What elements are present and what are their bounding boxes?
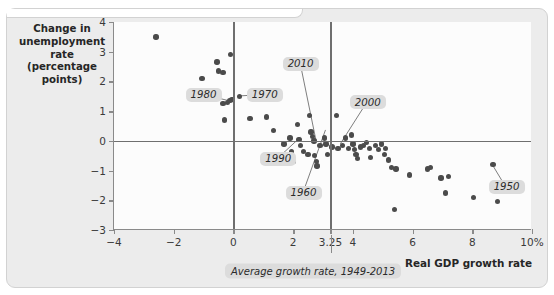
- x-tick-mark: [233, 229, 234, 234]
- annotation-label-2010: 2010: [283, 57, 319, 71]
- reference-line-y-0: [114, 141, 531, 142]
- data-point: [386, 157, 391, 162]
- plot-area: 43210−1−2−3 −4−2023.2546810% 19801970201…: [113, 22, 531, 230]
- x-tick-label: −2: [166, 236, 181, 248]
- data-point: [307, 113, 312, 118]
- x-tick-label: 6: [409, 236, 416, 248]
- data-point: [392, 207, 397, 212]
- data-point: [228, 52, 233, 57]
- data-point: [305, 152, 310, 157]
- y-tick-mark: [109, 81, 114, 82]
- data-point: [295, 122, 300, 127]
- data-point: [355, 156, 360, 161]
- y-tick-mark: [109, 22, 114, 23]
- data-point: [247, 116, 252, 121]
- x-tick-mark: [472, 229, 473, 234]
- data-point: [153, 34, 158, 39]
- annotation-label-1960: 1960: [286, 186, 322, 200]
- data-point: [322, 135, 327, 140]
- data-point: [407, 172, 412, 177]
- y-tick-label: 3: [99, 46, 106, 58]
- data-point: [490, 162, 495, 167]
- data-point: [471, 195, 476, 200]
- data-point: [317, 143, 322, 148]
- annotation-label-1970: 1970: [247, 88, 283, 102]
- data-point: [349, 132, 354, 137]
- data-point: [340, 143, 345, 148]
- annotation-label-1990: 1990: [260, 152, 296, 166]
- x-tick-mark: [293, 229, 294, 234]
- x-tick-mark: [353, 229, 354, 234]
- data-point: [383, 146, 388, 151]
- data-point: [264, 114, 269, 119]
- y-tick-mark: [109, 200, 114, 201]
- x-axis-title: Real GDP growth rate: [405, 257, 532, 269]
- card-corner-notch: [7, 9, 303, 18]
- x-tick-mark: [413, 229, 414, 234]
- data-point: [382, 152, 387, 157]
- annotation-label-1950: 1950: [489, 180, 525, 194]
- data-point: [214, 59, 219, 64]
- x-tick-mark: [330, 229, 331, 234]
- data-point: [220, 70, 225, 75]
- x-tick-mark: [532, 229, 533, 234]
- data-point: [368, 155, 373, 160]
- annotation-leader-lines: [114, 22, 531, 229]
- y-tick-label: −3: [91, 224, 106, 236]
- x-tick-mark: [114, 229, 115, 234]
- annotation-label-2000: 2000: [350, 95, 386, 109]
- y-tick-label: 0: [99, 135, 106, 147]
- reference-line-x-3.25: [330, 22, 331, 229]
- y-tick-label: −2: [91, 194, 106, 206]
- data-point: [443, 190, 448, 195]
- y-tick-mark: [109, 141, 114, 142]
- x-tick-label: 8: [469, 236, 476, 248]
- data-point: [495, 199, 500, 204]
- y-axis-title: Change in unemployment rate (percentage …: [15, 23, 109, 87]
- data-point: [367, 146, 372, 151]
- data-point: [438, 175, 443, 180]
- data-point: [271, 128, 276, 133]
- chart-figure-card: Change in unemployment rate (percentage …: [6, 8, 548, 288]
- x-tick-mark: [174, 229, 175, 234]
- data-point: [298, 143, 303, 148]
- data-point: [343, 135, 348, 140]
- x-tick-label: 2: [290, 236, 297, 248]
- data-point: [312, 153, 317, 158]
- data-point: [287, 135, 292, 140]
- y-tick-mark: [109, 111, 114, 112]
- data-point: [199, 76, 204, 81]
- y-tick-label: 2: [99, 75, 106, 87]
- y-tick-label: 1: [99, 105, 106, 117]
- x-tick-label: −4: [106, 236, 121, 248]
- annotation-label-1980: 1980: [186, 88, 222, 102]
- x-tick-label: 4: [350, 236, 357, 248]
- x-tick-label: 10%: [520, 236, 543, 248]
- data-point: [334, 113, 339, 118]
- x-tick-label: 0: [230, 236, 237, 248]
- data-point: [376, 147, 381, 152]
- data-point: [393, 166, 398, 171]
- data-point: [325, 152, 330, 157]
- y-tick-label: −1: [91, 165, 106, 177]
- data-point: [314, 163, 319, 168]
- reference-line-x-0: [233, 22, 234, 229]
- data-point: [222, 117, 227, 122]
- y-tick-mark: [109, 171, 114, 172]
- y-tick-mark: [109, 52, 114, 53]
- data-point: [428, 165, 433, 170]
- average-growth-note: Average growth rate, 1949-2013: [225, 264, 401, 279]
- data-point: [446, 174, 451, 179]
- average-line-stem: [331, 235, 332, 253]
- y-tick-label: 4: [99, 16, 106, 28]
- data-point: [237, 94, 242, 99]
